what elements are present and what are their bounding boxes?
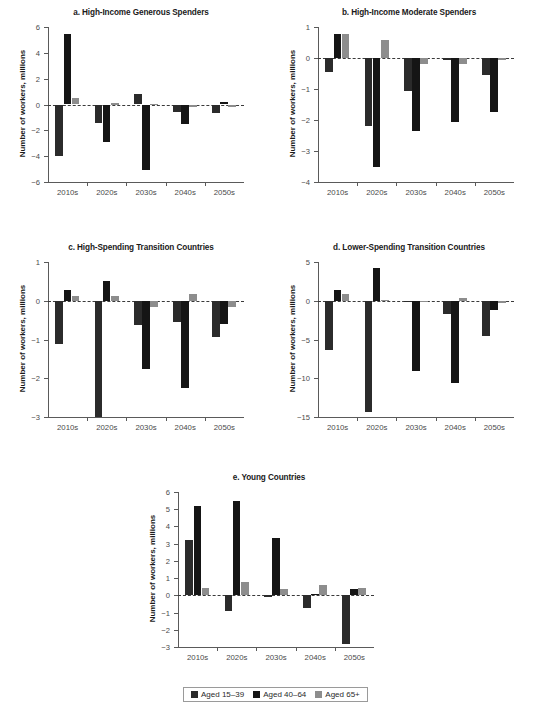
y-tick-label-e-7: 4: [148, 522, 170, 531]
bar-e-2010s-series2: [202, 588, 210, 595]
x-axis-label-e-2050s: 2050s: [344, 653, 365, 662]
y-tick-label-e-1: −2: [148, 625, 170, 634]
bar-e-2020s-series2: [241, 582, 249, 595]
x-tick-e-2: [256, 647, 257, 651]
y-axis-line-e: [178, 492, 179, 647]
x-axis-line-e: [178, 647, 374, 648]
legend-label-0: Aged 15–39: [201, 690, 244, 699]
legend-swatch-2: [315, 691, 322, 698]
bar-e-2020s-series1: [233, 501, 241, 596]
y-tick-e-4: [174, 578, 178, 579]
bar-e-2050s-series2: [358, 588, 366, 595]
x-axis-label-e-2030s: 2030s: [265, 653, 286, 662]
legend-label-1: Aged 40–64: [263, 690, 306, 699]
bar-e-2040s-series0: [303, 595, 311, 608]
bar-e-2030s-series0: [264, 595, 272, 597]
bar-e-2040s-series2: [319, 585, 327, 595]
x-axis-label-e-2040s: 2040s: [305, 653, 326, 662]
y-tick-e-2: [174, 613, 178, 614]
y-tick-e-6: [174, 544, 178, 545]
y-tick-label-e-6: 3: [148, 539, 170, 548]
legend-item-0: Aged 15–39: [191, 690, 244, 699]
y-tick-e-1: [174, 630, 178, 631]
y-tick-e-7: [174, 526, 178, 527]
x-axis-label-e-2020s: 2020s: [226, 653, 247, 662]
y-tick-label-e-2: −1: [148, 608, 170, 617]
y-tick-label-e-9: 6: [148, 488, 170, 497]
bar-e-2050s-series1: [350, 589, 358, 595]
panel-title-e: e. Young Countries: [160, 473, 378, 482]
y-tick-label-e-3: 0: [148, 591, 170, 600]
legend-swatch-1: [253, 691, 260, 698]
legend-item-2: Aged 65+: [315, 690, 359, 699]
y-tick-label-e-8: 5: [148, 505, 170, 514]
bar-e-2030s-series1: [272, 538, 280, 596]
bar-e-2020s-series0: [225, 595, 233, 611]
y-tick-e-9: [174, 492, 178, 493]
x-tick-e-1: [217, 647, 218, 651]
y-tick-label-e-4: 1: [148, 574, 170, 583]
chart-panel-e: e. Young CountriesNumber of workers, mil…: [0, 0, 543, 710]
legend-swatch-0: [191, 691, 198, 698]
y-tick-e-5: [174, 561, 178, 562]
bar-e-2050s-series0: [342, 595, 350, 644]
bar-e-2010s-series1: [194, 506, 202, 595]
y-tick-e-8: [174, 509, 178, 510]
bar-e-2040s-series1: [311, 594, 319, 596]
figure-legend: Aged 15–39Aged 40–64Aged 65+: [183, 687, 368, 702]
bar-e-2010s-series0: [185, 540, 193, 595]
legend-item-1: Aged 40–64: [253, 690, 306, 699]
legend-label-2: Aged 65+: [325, 690, 359, 699]
figure-panel-grid: a. High-Income Generous SpendersNumber o…: [0, 0, 543, 710]
x-tick-e-4: [335, 647, 336, 651]
y-axis-label-e: Number of workers, millions: [148, 491, 157, 646]
x-axis-label-e-2010s: 2010s: [187, 653, 208, 662]
x-tick-e-3: [296, 647, 297, 651]
y-tick-label-e-0: −3: [148, 643, 170, 652]
y-tick-label-e-5: 2: [148, 556, 170, 565]
bar-e-2030s-series2: [280, 589, 288, 595]
